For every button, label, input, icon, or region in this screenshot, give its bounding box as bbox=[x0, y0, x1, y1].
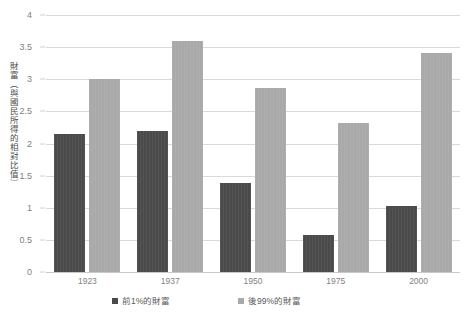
legend-swatch-icon bbox=[238, 298, 244, 304]
bar bbox=[421, 53, 452, 272]
x-axis-tick-label: 1950 bbox=[244, 276, 263, 286]
y-axis-tick-label: 1.5 bbox=[0, 171, 32, 181]
x-axis-tick-label: 1975 bbox=[326, 276, 345, 286]
y-axis-tick-label: 1 bbox=[0, 203, 32, 213]
y-axis-tick-label: 2 bbox=[0, 139, 32, 149]
chart-legend: 前1%的財富後99%的財富 bbox=[46, 296, 460, 310]
bar bbox=[172, 41, 203, 272]
y-axis-tick-mark bbox=[40, 111, 45, 112]
y-axis-tick-mark bbox=[40, 15, 45, 16]
y-axis-tick-mark bbox=[40, 143, 45, 144]
bar-chart: 財富（與國民所得的相對比值） 00.511.522.533.54 1923193… bbox=[0, 0, 466, 316]
y-axis-tick-labels: 00.511.522.533.54 bbox=[0, 15, 40, 272]
bar bbox=[137, 131, 168, 272]
legend-item[interactable]: 後99%的財富 bbox=[238, 296, 301, 306]
bar bbox=[89, 79, 120, 272]
gridline bbox=[46, 272, 460, 273]
x-axis-tick-label: 1937 bbox=[161, 276, 180, 286]
y-axis-tick-mark bbox=[40, 207, 45, 208]
y-axis-tick-mark bbox=[40, 47, 45, 48]
legend-label: 後99%的財富 bbox=[248, 296, 301, 306]
gridline bbox=[46, 47, 460, 48]
y-axis-tick-label: 3 bbox=[0, 74, 32, 84]
bar bbox=[338, 123, 369, 272]
x-axis-tick-labels: 19231937195019752000 bbox=[46, 276, 460, 290]
x-axis-tick-label: 1923 bbox=[78, 276, 97, 286]
legend-item[interactable]: 前1%的財富 bbox=[112, 296, 170, 306]
legend-swatch-icon bbox=[112, 298, 118, 304]
y-axis-tick-label: 0 bbox=[0, 267, 32, 277]
bar bbox=[303, 235, 334, 272]
y-axis-tick-label: 0.5 bbox=[0, 235, 32, 245]
y-axis-tick-label: 4 bbox=[0, 10, 32, 20]
y-axis-tick-mark bbox=[40, 239, 45, 240]
y-axis-tick-label: 2.5 bbox=[0, 106, 32, 116]
bar bbox=[54, 134, 85, 272]
bar bbox=[220, 183, 251, 272]
bar bbox=[386, 206, 417, 272]
bar bbox=[255, 88, 286, 272]
y-axis-tick-label: 3.5 bbox=[0, 42, 32, 52]
gridline bbox=[46, 15, 460, 16]
plot-area bbox=[46, 15, 460, 272]
y-axis-tick-mark bbox=[40, 175, 45, 176]
y-axis-tick-mark bbox=[40, 272, 45, 273]
y-axis-tick-mark bbox=[40, 79, 45, 80]
legend-label: 前1%的財富 bbox=[122, 296, 170, 306]
x-axis-tick-label: 2000 bbox=[409, 276, 428, 286]
